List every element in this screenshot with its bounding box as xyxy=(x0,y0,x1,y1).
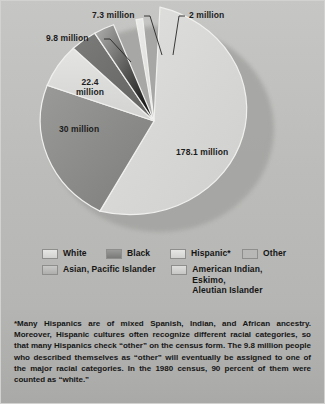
callout-american-indian: 2 million xyxy=(189,10,224,20)
legend-label-asian-pacific-islander: Asian, Pacific Islander xyxy=(63,264,156,275)
callout-hispanic-unit: million xyxy=(76,87,104,97)
legend-item-white[interactable]: White xyxy=(42,248,106,259)
legend-swatch-other xyxy=(242,249,258,259)
legend-item-asian-pacific-islander[interactable]: Asian, Pacific Islander xyxy=(42,264,171,275)
legend-swatch-black xyxy=(106,249,122,259)
legend-item-black[interactable]: Black xyxy=(106,248,170,259)
footnote-panel: *Many Hispanics are of mixed Spanish, In… xyxy=(0,310,325,404)
legend-row-2: Asian, Pacific Islander American Indian,… xyxy=(42,264,292,296)
legend-label-american-indian-line1: American Indian, Eskimo, xyxy=(192,264,262,285)
legend-label-other: Other xyxy=(263,248,286,259)
callout-black: 30 million xyxy=(59,124,99,134)
legend-row-1: White Black Hispanic* Other xyxy=(42,248,292,259)
legend-label-american-indian-line2: Aleutian Islander xyxy=(192,285,262,295)
callout-white: 178.1 million xyxy=(176,147,228,157)
legend-item-other[interactable]: Other xyxy=(242,248,286,259)
legend-swatch-american-indian xyxy=(171,265,187,275)
legend-swatch-white xyxy=(42,249,58,259)
legend-swatch-asian-pacific-islander xyxy=(42,265,58,275)
legend-label-hispanic: Hispanic* xyxy=(191,248,231,259)
figure-root: 7.3 million 2 million 9.8 million 22.4 m… xyxy=(0,0,325,404)
footnote-text: *Many Hispanics are of mixed Spanish, In… xyxy=(14,318,311,385)
callout-hispanic-value: 22.4 xyxy=(82,77,99,87)
legend-label-american-indian: American Indian, Eskimo, Aleutian Island… xyxy=(192,264,292,296)
legend-item-hispanic[interactable]: Hispanic* xyxy=(170,248,242,259)
legend: White Black Hispanic* Other A xyxy=(42,248,292,301)
legend-swatch-hispanic xyxy=(170,249,186,259)
legend-item-american-indian[interactable]: American Indian, Eskimo, Aleutian Island… xyxy=(171,264,292,296)
callout-asian-pacific-islander: 7.3 million xyxy=(92,10,135,20)
legend-label-white: White xyxy=(63,248,87,259)
callout-hispanic: 22.4 million xyxy=(66,77,114,97)
chart-panel: 7.3 million 2 million 9.8 million 22.4 m… xyxy=(0,0,325,310)
legend-label-black: Black xyxy=(127,248,150,259)
callout-other: 9.8 million xyxy=(46,33,89,43)
